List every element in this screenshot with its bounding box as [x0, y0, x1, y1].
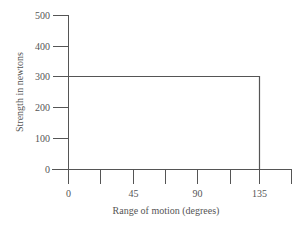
- y-label-200: 200: [35, 102, 50, 113]
- x-axis-title: Range of motion (degrees): [113, 205, 220, 217]
- y-label-100: 100: [35, 133, 50, 144]
- y-label-500: 500: [35, 10, 50, 21]
- y-label-0: 0: [45, 164, 50, 175]
- y-label-300: 300: [35, 71, 50, 82]
- x-label-0: 0: [66, 188, 71, 199]
- y-label-400: 400: [35, 41, 50, 52]
- x-label-135: 135: [252, 188, 267, 199]
- strength-line: [53, 77, 260, 170]
- y-axis-title: Strength in newtons: [14, 52, 25, 132]
- x-label-45: 45: [129, 188, 139, 199]
- x-label-90: 90: [193, 188, 203, 199]
- x-ticks: [101, 170, 292, 185]
- chart: 500 400 300 200 100 0 0 45 90 135 Range …: [0, 0, 306, 226]
